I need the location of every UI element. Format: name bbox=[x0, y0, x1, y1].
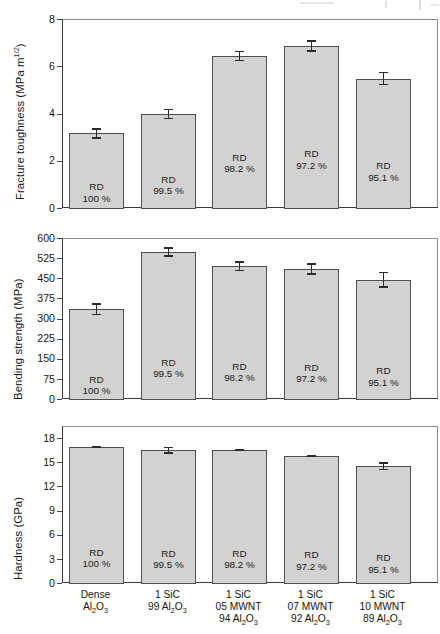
error-bar-cap-top bbox=[164, 447, 173, 449]
error-bar-cap-bottom bbox=[235, 270, 244, 272]
plot-frame-right bbox=[437, 427, 438, 582]
bar-rd-label: RD97.2 % bbox=[285, 549, 338, 572]
bar-rd-label: RD100 % bbox=[70, 181, 123, 204]
panel-hardness: Hardness (GPa) 0369121518 RD100 %RD99.5 … bbox=[0, 408, 440, 588]
x-axis-category-label: 1 SiC05 MWNT94 Al2O3 bbox=[197, 589, 280, 628]
bar-rd-value: 100 % bbox=[70, 193, 123, 205]
bar-rd-title: RD bbox=[70, 181, 123, 193]
bar-rd-value: 99.5 % bbox=[142, 559, 195, 571]
bar-rd-value: 95.1 % bbox=[357, 172, 410, 184]
category-line-1: Dense bbox=[54, 589, 137, 601]
error-bar-cap-top bbox=[235, 261, 244, 263]
bar-rd-title: RD bbox=[285, 362, 338, 374]
bar-rd-value: 99.5 % bbox=[142, 185, 195, 197]
error-bar-cap-bottom bbox=[379, 84, 388, 86]
category-line-3: 94 Al2O3 bbox=[197, 613, 280, 629]
error-bar bbox=[212, 51, 267, 61]
bar-rd-title: RD bbox=[285, 549, 338, 561]
bar: RD99.5 % bbox=[141, 252, 196, 400]
error-bar bbox=[69, 128, 124, 138]
error-bar bbox=[212, 449, 267, 451]
error-bar bbox=[141, 109, 196, 119]
bar: RD95.1 % bbox=[356, 280, 411, 400]
x-axis-category-label: 1 SiC10 MWNT89 Al2O3 bbox=[341, 589, 424, 628]
error-bar-cap-bottom bbox=[164, 452, 173, 454]
bar-rd-label: RD98.2 % bbox=[213, 152, 266, 175]
category-line-2: 07 MWNT bbox=[269, 601, 352, 613]
error-bar-cap-bottom bbox=[379, 469, 388, 471]
category-line-1: 1 SiC bbox=[269, 589, 352, 601]
y-axis-tick-label: 0 bbox=[49, 394, 55, 405]
error-bar-cap-top bbox=[92, 128, 101, 130]
error-bar-cap-bottom bbox=[92, 137, 101, 139]
bar-rd-title: RD bbox=[213, 548, 266, 560]
bar: RD97.2 % bbox=[284, 46, 339, 209]
y-axis-ticks-hardness: 0369121518 bbox=[0, 408, 62, 588]
bar: RD100 % bbox=[69, 133, 124, 209]
y-axis-tick-label: 450 bbox=[37, 273, 55, 284]
bar-rd-title: RD bbox=[357, 552, 410, 564]
bar-rd-title: RD bbox=[213, 361, 266, 373]
bar-rd-label: RD98.2 % bbox=[213, 548, 266, 571]
bar-rd-title: RD bbox=[285, 148, 338, 160]
bar-rd-label: RD95.1 % bbox=[357, 552, 410, 575]
y-axis-tick-label: 15 bbox=[43, 457, 55, 468]
bar-rd-label: RD95.1 % bbox=[357, 160, 410, 183]
bar: RD99.5 % bbox=[141, 450, 196, 584]
bar-rd-title: RD bbox=[142, 174, 195, 186]
bar-rd-value: 95.1 % bbox=[357, 377, 410, 389]
error-bar-cap-top bbox=[307, 40, 316, 42]
category-line-2: 10 MWNT bbox=[341, 601, 424, 613]
bar-rd-value: 97.2 % bbox=[285, 561, 338, 573]
category-line-2: 05 MWNT bbox=[197, 601, 280, 613]
error-bar bbox=[69, 446, 124, 448]
y-axis-tick-label: 375 bbox=[37, 293, 55, 304]
bar-rd-label: RD97.2 % bbox=[285, 362, 338, 385]
y-axis-tick-label: 2 bbox=[49, 155, 55, 166]
panel-fracture-toughness: Fracture toughness (MPa m1/2) 02468 RD10… bbox=[0, 0, 440, 212]
error-bar-cap-top bbox=[307, 263, 316, 265]
y-axis-tick-label: 225 bbox=[37, 333, 55, 344]
bar: RD100 % bbox=[69, 309, 124, 400]
y-axis-tick-label: 6 bbox=[49, 61, 55, 72]
error-bar bbox=[284, 263, 339, 274]
error-bar bbox=[284, 455, 339, 457]
y-axis-ticks-bending-strength: 075150225300375450525600 bbox=[0, 212, 62, 408]
bar-rd-title: RD bbox=[357, 365, 410, 377]
y-axis-tick-label: 75 bbox=[43, 374, 55, 385]
bar-rd-value: 100 % bbox=[70, 385, 123, 397]
error-bar-cap-top bbox=[379, 72, 388, 74]
bar: RD97.2 % bbox=[284, 269, 339, 400]
bar-rd-label: RD99.5 % bbox=[142, 548, 195, 571]
bar-rd-label: RD100 % bbox=[70, 374, 123, 397]
bar-rd-value: 97.2 % bbox=[285, 160, 338, 172]
y-axis-ticks-fracture-toughness: 02468 bbox=[0, 0, 62, 212]
bar: RD95.1 % bbox=[356, 466, 411, 584]
bar-rd-label: RD99.5 % bbox=[142, 174, 195, 197]
bar-rd-label: RD98.2 % bbox=[213, 361, 266, 384]
y-axis-tick-label: 3 bbox=[49, 554, 55, 565]
bar-rd-title: RD bbox=[357, 160, 410, 172]
y-axis-tick-label: 525 bbox=[37, 253, 55, 264]
error-bar bbox=[141, 447, 196, 454]
category-line-1: 1 SiC bbox=[197, 589, 280, 601]
error-bar-cap-top bbox=[379, 272, 388, 274]
bar-rd-value: 95.1 % bbox=[357, 564, 410, 576]
plot-area-bending-strength: RD100 %RD99.5 %RD98.2 %RD97.2 %RD95.1 % bbox=[62, 238, 438, 399]
error-bar bbox=[212, 261, 267, 271]
bar-rd-value: 98.2 % bbox=[213, 163, 266, 175]
error-bar-cap-bottom bbox=[235, 450, 244, 452]
y-axis-tick-label: 9 bbox=[49, 505, 55, 516]
x-axis-category-label: 1 SiC07 MWNT92 Al2O3 bbox=[269, 589, 352, 628]
y-axis-tick-label: 4 bbox=[49, 108, 55, 119]
bar-rd-title: RD bbox=[70, 374, 123, 386]
error-bar-cap-top bbox=[379, 462, 388, 464]
bar-rd-title: RD bbox=[213, 152, 266, 164]
bar-rd-value: 99.5 % bbox=[142, 368, 195, 380]
error-bar-cap-top bbox=[164, 109, 173, 111]
y-axis-tick bbox=[57, 208, 62, 209]
bar-rd-title: RD bbox=[142, 357, 195, 369]
plot-frame-right bbox=[437, 20, 438, 207]
y-axis-tick-label: 18 bbox=[43, 433, 55, 444]
bar: RD98.2 % bbox=[212, 450, 267, 584]
